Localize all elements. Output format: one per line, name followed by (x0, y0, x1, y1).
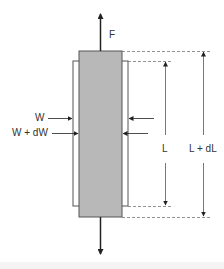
deformed-bar (79, 51, 122, 217)
width-changed-label: W + dW (12, 128, 48, 138)
width-label: W (35, 113, 44, 123)
length-changed-label: L + dL (189, 144, 217, 154)
bottom-band (0, 262, 224, 269)
force-label: F (109, 30, 115, 40)
length-label: L (162, 144, 168, 154)
